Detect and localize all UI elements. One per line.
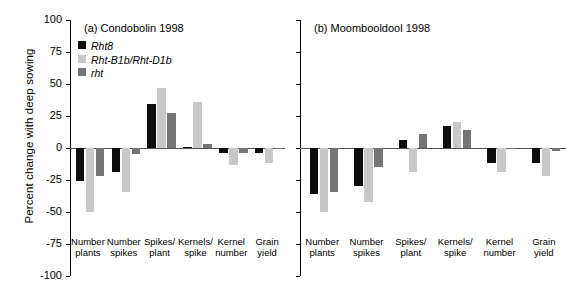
y-axis-tick-label: -25 [20, 173, 62, 185]
y-axis-tick [296, 52, 300, 53]
bar-a-4-1 [229, 148, 238, 165]
chart-figure: Percent change with deep sowing (a) Cond… [0, 0, 577, 289]
bar-a-2-2 [167, 113, 176, 148]
category-label-line: Kernels/ [438, 236, 473, 247]
bar-b-3-1 [453, 122, 462, 148]
category-label-line: yield [534, 247, 554, 258]
category-label-line: spikes [110, 247, 137, 258]
category-label-line: Kernels/ [178, 236, 213, 247]
x-axis-category-label: Kernels/spike [178, 237, 214, 258]
category-label-line: yield [257, 247, 277, 258]
x-axis-category-label: Grainyield [249, 237, 285, 258]
legend-label: Rht-B1b/Rht-D1b [91, 54, 172, 66]
bar-a-5-0 [255, 148, 264, 153]
panel-b-title: (b) Moombooldool 1998 [314, 22, 430, 34]
bar-a-0-2 [96, 148, 105, 176]
x-axis-category-label: Numberplants [70, 237, 106, 258]
bar-a-2-0 [147, 104, 156, 148]
bar-a-1-1 [122, 148, 131, 192]
bar-b-4-2 [507, 148, 516, 149]
category-label-line: Number [350, 236, 384, 247]
category-label-line: Grain [255, 236, 278, 247]
x-axis-category-label: Kernels/spike [433, 237, 477, 258]
y-axis-tick [66, 20, 70, 21]
bar-a-3-1 [193, 102, 202, 148]
zero-baseline [300, 148, 566, 149]
y-axis-tick [66, 116, 70, 117]
bar-a-1-0 [112, 148, 121, 172]
bar-b-2-1 [409, 148, 418, 172]
bar-a-1-2 [132, 148, 141, 154]
y-axis-tick [66, 84, 70, 85]
bar-b-3-0 [443, 126, 452, 148]
x-axis-category-label: Numberspikes [106, 237, 142, 258]
y-axis-tick [66, 180, 70, 181]
y-axis-tick [66, 52, 70, 53]
category-label-line: number [215, 247, 247, 258]
y-axis-tick [296, 116, 300, 117]
bar-b-2-0 [399, 140, 408, 148]
x-axis-category-label: Kernelnumber [213, 237, 249, 258]
bar-b-1-0 [354, 148, 363, 186]
legend-swatch-icon [78, 41, 86, 49]
bar-a-4-2 [239, 148, 248, 153]
y-axis-tick-label: 25 [20, 109, 62, 121]
legend-swatch-icon [78, 55, 86, 63]
bar-b-1-2 [374, 148, 383, 167]
y-axis-tick [296, 20, 300, 21]
y-axis-tick-label: 0 [20, 141, 62, 153]
category-label-line: plants [309, 247, 334, 258]
bar-b-5-0 [532, 148, 541, 163]
y-axis-tick [296, 84, 300, 85]
y-axis-tick-label: -100 [20, 269, 62, 281]
y-axis-tick [66, 212, 70, 213]
bar-a-5-1 [265, 148, 274, 163]
y-axis-tick [296, 180, 300, 181]
legend-swatch-icon [78, 68, 86, 76]
x-axis-category-label: Numberspikes [344, 237, 388, 258]
y-axis-tick [296, 212, 300, 213]
y-axis-tick-label: 75 [20, 45, 62, 57]
bar-b-0-2 [330, 148, 339, 192]
legend-label: rht [91, 67, 103, 79]
bar-b-0-0 [310, 148, 319, 194]
bar-b-3-2 [463, 130, 472, 148]
category-label-line: number [483, 247, 515, 258]
bar-b-5-2 [552, 148, 561, 151]
category-label-line: plant [149, 247, 170, 258]
category-label-line: Number [305, 236, 339, 247]
bar-a-0-1 [86, 148, 95, 212]
bar-a-5-2 [275, 148, 284, 149]
y-axis-tick-label: -75 [20, 237, 62, 249]
y-axis-tick-label: -50 [20, 205, 62, 217]
category-label-line: spikes [353, 247, 380, 258]
bar-b-4-1 [497, 148, 506, 172]
y-axis-tick [66, 276, 70, 277]
bar-a-3-0 [183, 147, 192, 148]
y-axis-tick-label: 100 [20, 13, 62, 25]
bar-b-4-0 [487, 148, 496, 163]
x-axis-category-label: Grainyield [522, 237, 566, 258]
category-label-line: Number [107, 236, 141, 247]
category-label-line: Grain [532, 236, 555, 247]
category-label-line: spike [444, 247, 466, 258]
category-label-line: Number [71, 236, 105, 247]
bar-a-2-1 [157, 88, 166, 148]
legend-label: Rht8 [91, 40, 113, 52]
x-axis-category-label: Kernelnumber [477, 237, 521, 258]
bar-b-1-1 [364, 148, 373, 202]
panel-a-title: (a) Condobolin 1998 [84, 22, 184, 34]
bar-a-4-0 [219, 148, 228, 153]
bar-a-3-2 [203, 144, 212, 148]
x-axis-category-label: Spikes/plant [389, 237, 433, 258]
category-label-line: Kernel [486, 236, 513, 247]
y-axis-tick-label: 50 [20, 77, 62, 89]
bar-b-5-1 [542, 148, 551, 176]
bar-b-0-1 [320, 148, 329, 212]
category-label-line: Kernel [218, 236, 245, 247]
bar-b-2-2 [419, 134, 428, 148]
category-label-line: Spikes/ [144, 236, 175, 247]
category-label-line: Spikes/ [395, 236, 426, 247]
category-label-line: spike [184, 247, 206, 258]
x-axis-category-label: Numberplants [300, 237, 344, 258]
